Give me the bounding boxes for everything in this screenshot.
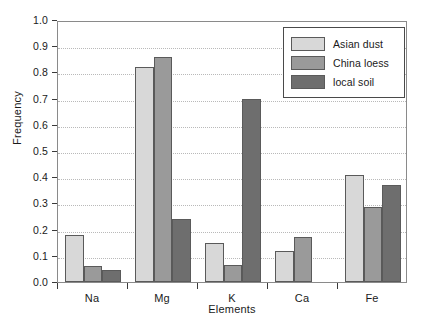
y-tick-label: 1.0: [33, 14, 48, 26]
bar: [102, 270, 121, 282]
y-tick-label: 0.1: [33, 250, 48, 262]
gridline: [58, 127, 406, 128]
legend-label: Asian dust: [333, 38, 383, 50]
y-tick-label: 0.3: [33, 197, 48, 209]
x-tick-mark: [197, 283, 198, 289]
bar: [224, 265, 243, 282]
legend-item: Asian dust: [291, 35, 404, 52]
bar: [294, 237, 313, 282]
bar: [205, 243, 224, 282]
bar: [345, 175, 364, 282]
y-tick-label: 0.4: [33, 171, 48, 183]
x-tick-label: Mg: [132, 292, 192, 304]
y-tick-label: 0.5: [33, 145, 48, 157]
x-tick-mark: [57, 283, 58, 289]
bar: [275, 251, 294, 282]
gridline: [58, 101, 406, 102]
bar: [135, 67, 154, 282]
x-tick-label: Na: [62, 292, 122, 304]
bar: [154, 57, 173, 282]
legend-label: China loess: [333, 57, 389, 69]
bar: [65, 235, 84, 282]
x-axis-label: Elements: [57, 303, 407, 315]
x-tick-mark: [337, 283, 338, 289]
legend-item: local soil: [291, 73, 404, 90]
y-tick-label: 0.9: [33, 40, 48, 52]
x-tick-mark: [127, 283, 128, 289]
y-tick-label: 0.7: [33, 93, 48, 105]
bar-chart: Frequency Elements 1.00.90.80.70.60.50.4…: [0, 0, 432, 325]
legend-item: China loess: [291, 54, 404, 71]
bar: [364, 207, 383, 282]
legend-swatch: [291, 56, 325, 70]
bar: [84, 266, 103, 282]
bar: [172, 219, 191, 282]
x-tick-label: Fe: [342, 292, 402, 304]
gridline: [58, 153, 406, 154]
bar: [242, 99, 261, 282]
y-tick-label: 0.2: [33, 224, 48, 236]
bar: [382, 185, 401, 282]
y-axis-label: Frequency: [11, 73, 23, 163]
y-tick-label: 0.8: [33, 66, 48, 78]
y-tick-label: 0.6: [33, 119, 48, 131]
x-tick-label: Ca: [272, 292, 332, 304]
legend-swatch: [291, 37, 325, 51]
legend: Asian dustChina loesslocal soil: [283, 27, 405, 98]
y-tick-label: 0.0: [33, 276, 48, 288]
legend-label: local soil: [333, 76, 374, 88]
x-tick-mark: [267, 283, 268, 289]
x-tick-label: K: [202, 292, 262, 304]
legend-swatch: [291, 75, 325, 89]
